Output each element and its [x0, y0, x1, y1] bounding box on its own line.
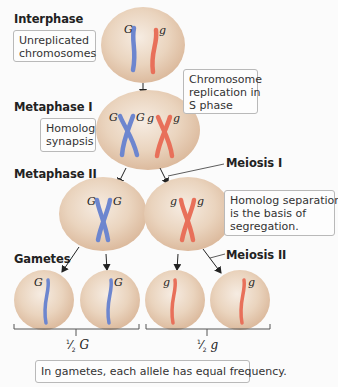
allele-label-G: G — [87, 195, 96, 208]
label-meiosis1: Meiosis I — [226, 156, 282, 170]
note-line: Homolog separation — [230, 194, 329, 207]
label-metaphase2: Metaphase II — [14, 167, 97, 181]
allele-label-g: g — [197, 195, 204, 208]
note-line: chromosomes — [19, 47, 90, 60]
fraction-allele: g — [211, 338, 219, 352]
note-line: In gametes, each allele has equal freque… — [41, 365, 244, 378]
gamete-1: G — [14, 270, 74, 330]
allele-label-g: g — [159, 24, 166, 37]
note-frequency: In gametes, each allele has equal freque… — [35, 360, 250, 383]
note-line: Unreplicated — [19, 34, 90, 47]
allele-label-g: g — [170, 195, 177, 208]
arrow-meiosis2-2 — [106, 254, 107, 270]
label-meiosis2: Meiosis II — [226, 248, 286, 262]
note-separation: Homolog separation is the basis of segre… — [224, 190, 335, 236]
allele-label-G: G — [136, 111, 145, 124]
note-synapsis: Homolog synapsis — [40, 118, 96, 152]
meiosis2-leader-line — [210, 254, 225, 258]
gamete-2: G — [80, 270, 140, 330]
interphase-cell: G g — [101, 7, 185, 83]
gamete-3: g — [145, 270, 205, 330]
arrow-meiosis2-4 — [203, 249, 221, 273]
metaphase2-cell-recessive: g g — [144, 177, 232, 251]
chromosome-dominant — [133, 28, 134, 70]
meiosis1-leader-line — [168, 164, 224, 176]
allele-label-g: g — [248, 276, 255, 289]
fraction-denominator: 2 — [203, 346, 207, 353]
fraction-allele: G — [80, 338, 90, 352]
gamete-4: g — [210, 270, 270, 330]
meiosis-diagram: G g G G g g G G — [0, 0, 338, 387]
allele-label-G: G — [113, 195, 122, 208]
label-metaphase1: Metaphase I — [14, 100, 93, 114]
note-line: synapsis — [46, 135, 90, 148]
allele-label-G: G — [124, 23, 133, 36]
arrow-meiosis2-3 — [177, 254, 178, 270]
note-unreplicated: Unreplicated chromosomes — [13, 30, 96, 62]
fraction-numerator: 1 — [197, 338, 201, 345]
note-line: Chromosome — [189, 73, 252, 86]
fraction-denominator: 2 — [72, 346, 76, 353]
note-line: is the basis of — [230, 207, 329, 220]
allele-label-G: G — [114, 276, 123, 289]
label-interphase: Interphase — [14, 12, 83, 26]
note-line: S phase — [189, 99, 252, 112]
allele-label-G: G — [109, 111, 118, 124]
fraction-numerator: 1 — [66, 338, 70, 345]
fraction-dominant: 1⁄2 G — [66, 338, 89, 353]
metaphase2-cell-dominant: G G — [59, 177, 147, 251]
allele-label-G: G — [34, 276, 43, 289]
note-line: replication in — [189, 86, 252, 99]
fraction-recessive: 1⁄2 g — [197, 338, 218, 353]
note-line: Homolog — [46, 122, 90, 135]
label-gametes: Gametes — [14, 252, 70, 266]
note-replication: Chromosome replication in S phase — [183, 69, 258, 114]
allele-label-g: g — [173, 112, 180, 125]
allele-label-g: g — [163, 276, 170, 289]
note-line: segregation. — [230, 220, 329, 233]
allele-label-g: g — [147, 112, 154, 125]
